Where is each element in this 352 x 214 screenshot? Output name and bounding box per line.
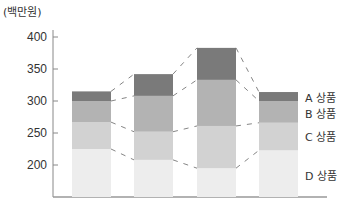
bar-segment-d xyxy=(259,150,298,197)
bar-segment-c xyxy=(134,132,173,160)
legend-label: C 상품 xyxy=(305,131,336,144)
legend-label: D 상품 xyxy=(305,170,337,183)
y-tick-label: 350 xyxy=(27,62,47,76)
legend-label: A 상품 xyxy=(305,92,336,105)
connector-line xyxy=(111,122,134,132)
bar-segment-d xyxy=(197,168,236,197)
y-axis-unit-label: (백만원) xyxy=(3,3,42,19)
bar-segment-c xyxy=(72,122,111,149)
bar-segment-a xyxy=(259,92,298,101)
connector-line xyxy=(173,126,197,132)
bar-segment-c xyxy=(197,126,236,168)
y-tick-label: 200 xyxy=(27,158,47,172)
bar-segment-c xyxy=(259,123,298,151)
connector-line xyxy=(111,149,134,160)
bar-segment-a xyxy=(197,48,236,80)
connector-line xyxy=(173,80,197,96)
connector-line xyxy=(236,80,259,101)
connector-line xyxy=(173,160,197,168)
bar-segment-b xyxy=(197,80,236,126)
connector-line xyxy=(236,48,259,92)
bar-segment-a xyxy=(134,74,173,96)
connector-line xyxy=(236,123,259,126)
chart-canvas: 200250300350400A 상품B 상품C 상품D 상품 xyxy=(0,0,352,214)
bar-segment-b xyxy=(72,101,111,122)
connector-line xyxy=(236,150,259,168)
legend-label: B 상품 xyxy=(305,108,336,121)
bar-segment-d xyxy=(72,149,111,197)
connector-line xyxy=(111,96,134,101)
connector-line xyxy=(111,74,134,91)
y-tick-label: 250 xyxy=(27,126,47,140)
y-tick-label: 300 xyxy=(27,94,47,108)
bar-segment-b xyxy=(259,101,298,123)
connector-line xyxy=(173,48,197,74)
stacked-bar-chart: (백만원) 200250300350400A 상품B 상품C 상품D 상품 xyxy=(0,0,352,214)
bar-segment-d xyxy=(134,160,173,197)
bar-segment-a xyxy=(72,91,111,101)
bar-segment-b xyxy=(134,96,173,132)
y-tick-label: 400 xyxy=(27,30,47,44)
